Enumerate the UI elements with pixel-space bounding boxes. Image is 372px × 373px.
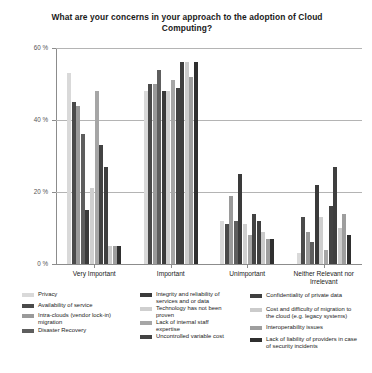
legend-swatch xyxy=(250,338,262,342)
legend-swatch xyxy=(250,308,262,312)
legend-swatch xyxy=(250,294,262,298)
legend-swatch xyxy=(22,314,34,318)
legend-swatch xyxy=(22,304,34,308)
legend-swatch xyxy=(22,329,34,333)
legend-label: Technology has not been proven xyxy=(156,305,234,318)
legend-swatch xyxy=(140,321,152,325)
legend-swatch xyxy=(140,307,152,311)
legend-label: Disaster Recovery xyxy=(38,327,116,334)
legend: PrivacyAvailability of serviceIntra-clou… xyxy=(0,0,372,373)
legend-label: Intra-clouds (vendor lock-in) migration xyxy=(38,312,116,325)
legend-swatch xyxy=(140,293,152,297)
legend-label: Cost and difficulty of migration to the … xyxy=(266,306,360,319)
legend-label: Lack of liability of providers in case o… xyxy=(266,336,360,349)
chart-container: What are your concerns in your approach … xyxy=(0,0,372,373)
legend-label: Privacy xyxy=(38,291,116,298)
legend-label: Interoperability issues xyxy=(266,324,360,331)
legend-swatch xyxy=(250,326,262,330)
legend-swatch xyxy=(22,293,34,297)
legend-label: Integrity and reliability of services an… xyxy=(156,291,234,304)
legend-label: Confidentiality of private data xyxy=(266,292,360,299)
legend-label: Uncontrolled variable cost xyxy=(156,333,234,340)
legend-label: Availability of service xyxy=(38,302,116,309)
legend-label: Lack of internal staff expertise xyxy=(156,319,234,332)
legend-swatch xyxy=(140,335,152,339)
